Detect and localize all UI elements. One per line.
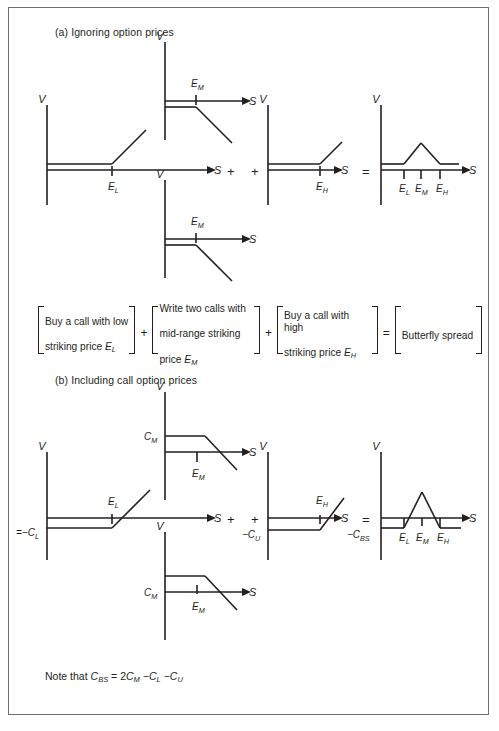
- bracket-operator-equals: =: [378, 326, 395, 340]
- bracket-symbol: E: [105, 341, 112, 352]
- bracket-symbol-sub: L: [112, 345, 116, 354]
- bracket-term-result: Butterfly spread: [395, 306, 482, 354]
- bracket-term-text: Write two calls with mid-range striking …: [159, 291, 245, 370]
- note-equals: = 2: [108, 670, 126, 682]
- panel-a-heading: (a) Ignoring option prices: [55, 26, 174, 38]
- bracket-term-text: Buy a call with low striking price EL: [45, 303, 128, 356]
- bracket-term-buy-low: Buy a call with low striking price EL: [38, 306, 135, 354]
- bracket-term-buy-high: Buy a call with high striking price EH: [277, 306, 378, 354]
- bracket-term-write-two: Write two calls with mid-range striking …: [152, 306, 260, 354]
- bracket-operator-plus-2: +: [260, 326, 277, 340]
- bracket-symbol-sub: M: [191, 358, 197, 367]
- bracket-line-1: Buy a call with low: [45, 316, 128, 327]
- bracket-line-2: mid-range striking: [159, 328, 240, 339]
- bracket-line-3: price: [159, 354, 184, 365]
- bracket-operator-plus-1: +: [135, 326, 152, 340]
- note-lhs: C: [91, 670, 99, 682]
- bracket-symbol: E: [344, 347, 351, 358]
- note-term-3-sub: U: [177, 675, 182, 684]
- figure-frame: (a) Ignoring option prices (b) Including…: [8, 7, 489, 715]
- note-lhs-sub: BS: [98, 675, 108, 684]
- bracket-equation: Buy a call with low striking price EL + …: [38, 304, 482, 356]
- note-term-2: C: [149, 670, 157, 682]
- bracket-line-1: Butterfly spread: [402, 330, 473, 341]
- note-prefix: Note that: [45, 670, 91, 682]
- bracket-line-2: striking price: [284, 347, 344, 358]
- bracket-symbol-sub: H: [351, 351, 356, 360]
- bracket-line-2: striking price: [45, 341, 105, 352]
- note-minus-2: −: [161, 670, 170, 682]
- note-minus-1: −: [140, 670, 149, 682]
- bracket-line-1: Write two calls with: [159, 303, 245, 314]
- bracket-term-text: Buy a call with high striking price EH: [284, 297, 371, 363]
- note-line: Note that CBS = 2CM −CL −CU: [45, 670, 183, 684]
- bracket-term-text: Butterfly spread: [402, 317, 473, 342]
- panel-b-heading: (b) Including call option prices: [55, 374, 197, 386]
- note-term-1: C: [126, 670, 134, 682]
- bracket-line-1: Buy a call with high: [284, 310, 349, 334]
